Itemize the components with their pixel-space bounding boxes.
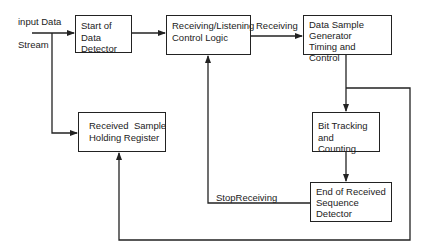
- block-text: Timing and Control: [309, 41, 386, 63]
- block-text: Received Sample: [89, 120, 160, 132]
- receiving-label: Receiving: [256, 20, 298, 31]
- stop-receiving-arrow: [208, 56, 310, 203]
- block-text: Receiving/Listening: [172, 20, 245, 32]
- bit-tracking-block: Bit Tracking and Counting: [312, 112, 380, 152]
- block-text: Detector: [81, 43, 126, 55]
- block-text: Bit Tracking: [318, 120, 374, 132]
- block-text: Holding Register: [89, 132, 160, 144]
- input-label-line1: input Data: [18, 16, 61, 27]
- data-sample-generator-block: Data Sample Generator Timing and Control: [303, 15, 392, 55]
- block-text: and Counting: [318, 132, 374, 155]
- stop-receiving-label: StopReceiving: [216, 192, 277, 203]
- holding-register-block: Received Sample Holding Register: [78, 112, 166, 152]
- block-text: Generator: [309, 30, 386, 41]
- start-of-data-detector-block: Start of Data Detector: [75, 15, 132, 53]
- input-branch-arrow: [52, 33, 77, 133]
- block-text: Sequence: [316, 197, 386, 208]
- end-of-sequence-detector-block: End of Received Sequence Detector: [310, 182, 392, 222]
- input-label-line2: Stream: [18, 39, 49, 50]
- block-text: Control Logic: [172, 32, 245, 44]
- block-text: Start of Data: [81, 20, 126, 43]
- block-text: End of Received: [316, 186, 386, 197]
- block-text: Data Sample: [309, 19, 386, 30]
- control-logic-block: Receiving/Listening Control Logic: [166, 15, 251, 55]
- block-text: Detector: [316, 208, 386, 219]
